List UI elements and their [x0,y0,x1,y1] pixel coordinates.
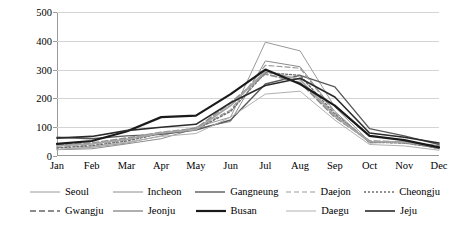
x-tick-label: Apr [153,160,169,171]
series-line-busan [57,70,439,148]
legend-label: Cheongju [399,186,440,198]
legend-item-seoul[interactable]: Seoul [30,186,113,198]
legend-swatch-icon [30,206,60,216]
x-tick-label: Mar [118,160,136,171]
legend-swatch-icon [113,187,143,197]
legend-label: Daejon [321,186,351,198]
x-tick-label: Aug [291,160,309,171]
legend-label: Gangneung [230,186,278,198]
x-tick-label: Feb [84,160,100,171]
series-lines [57,12,439,156]
legend-item-jeju[interactable]: Jeju [365,205,440,217]
y-tick-mark [53,156,57,157]
legend-label: Daegu [321,205,348,217]
legend-swatch-icon [286,206,316,216]
x-tick-label: Dec [431,160,448,171]
x-tick-label: Jun [223,160,238,171]
precipitation-line-chart: Precipitation (mm) 0100200300400500 JanF… [0,0,463,235]
legend-item-gangneung[interactable]: Gangneung [195,186,285,198]
series-line-seoul [57,42,439,149]
x-tick-label: Jul [259,160,271,171]
plot-area: 0100200300400500 JanFebMarAprMayJunJulAu… [57,12,439,156]
legend-label: Jeonju [148,205,175,217]
legend-row: SeoulIncheonGangneungDaejonCheongju [30,182,440,201]
legend-item-busan[interactable]: Busan [196,205,287,217]
y-tick-label: 200 [36,93,52,104]
x-tick-label: Jan [50,160,64,171]
legend-item-incheon[interactable]: Incheon [113,186,196,198]
legend-row: GwangjuJeonjuBusanDaeguJeju [30,201,440,220]
x-tick-label: May [186,160,205,171]
legend-item-daegu[interactable]: Daegu [286,205,365,217]
legend-swatch-icon [195,187,225,197]
y-tick-label: 500 [36,7,52,18]
legend-label: Busan [231,205,257,217]
legend-item-cheongju[interactable]: Cheongju [364,186,440,198]
x-tick-label: Sep [327,160,343,171]
x-tick-label: Nov [395,160,413,171]
legend-swatch-icon [286,187,316,197]
x-tick-label: Oct [362,160,377,171]
legend-label: Incheon [148,186,182,198]
legend-item-daejon[interactable]: Daejon [286,186,365,198]
legend-label: Jeju [400,205,417,217]
legend-swatch-icon [196,206,226,216]
y-tick-label: 400 [36,35,52,46]
legend-swatch-icon [365,206,395,216]
y-tick-label: 100 [36,122,52,133]
legend: SeoulIncheonGangneungDaejonCheongjuGwang… [30,182,440,220]
legend-item-gwangju[interactable]: Gwangju [30,205,113,217]
legend-swatch-icon [364,187,394,197]
legend-label: Gwangju [65,205,104,217]
y-tick-label: 300 [36,64,52,75]
legend-label: Seoul [65,186,89,198]
legend-item-jeonju[interactable]: Jeonju [113,205,196,217]
legend-swatch-icon [113,206,143,216]
legend-swatch-icon [30,187,60,197]
